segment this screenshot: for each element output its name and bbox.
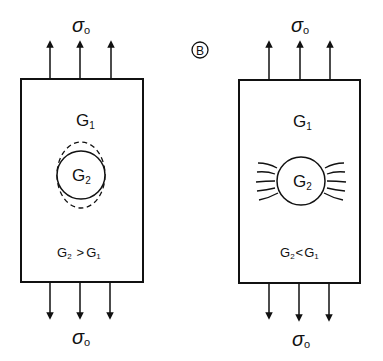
condition-left: G2>G1 [57,245,101,261]
panel-left: σo G1 G2 G2>G1 σo [21,14,143,348]
stress-label-top-left: σo [72,14,90,36]
stress-label-bottom-right: σo [292,328,310,350]
matrix-label-left: G1 [76,111,95,131]
tension-arrows-bottom-right [269,283,329,318]
tension-arrows-top-right [269,44,330,80]
panel-right: σo G1 G2 G2<G1 σo [239,14,360,350]
figure-label-b: B [192,42,208,58]
stress-label-bottom-left: σo [72,326,90,348]
condition-right: G2<G1 [280,245,319,261]
tension-arrows-top-left [50,44,111,79]
figure-canvas: B σo G1 G2 G2>G1 σo σo [0,0,383,361]
stress-label-top-right: σo [291,14,309,36]
svg-text:B: B [196,44,204,58]
matrix-label-right: G1 [293,112,312,132]
tension-arrows-bottom-left [50,282,110,316]
